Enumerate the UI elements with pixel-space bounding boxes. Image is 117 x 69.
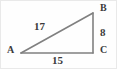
vertex-label-c: C: [100, 45, 107, 55]
side-length-label-base-leg: 15: [52, 55, 63, 66]
vertex-label-a: A: [7, 45, 14, 55]
side-hypotenuse-line: [21, 13, 93, 53]
side-length-label-vertical-leg: 8: [100, 27, 106, 38]
triangle-diagram: A B C 17 8 15: [0, 0, 117, 69]
side-length-label-hypotenuse: 17: [34, 21, 45, 32]
vertex-label-b: B: [100, 3, 107, 13]
